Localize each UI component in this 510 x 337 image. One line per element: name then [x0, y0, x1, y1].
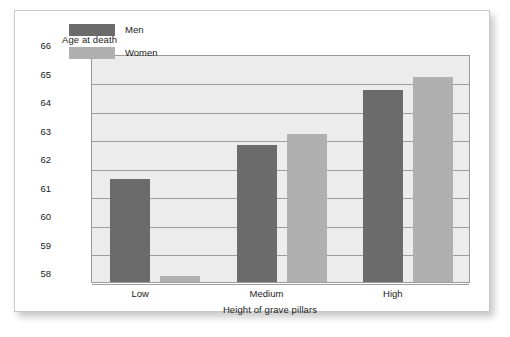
bar-low-men — [110, 179, 150, 282]
x-tick-label-medium: Medium — [250, 288, 284, 299]
bar-high-men — [363, 90, 403, 282]
legend-label-women: Women — [125, 46, 158, 59]
gridline — [92, 284, 469, 285]
bar-medium-women — [287, 134, 327, 282]
x-tick-label-low: Low — [131, 288, 148, 299]
y-tick-label: 61 — [21, 182, 51, 193]
y-tick-label: 63 — [21, 125, 51, 136]
bar-high-women — [413, 77, 453, 282]
chart-page: Age at death MenWomen 666564636261605958… — [0, 0, 510, 337]
plot-inner — [92, 56, 469, 282]
plot-area — [91, 55, 470, 283]
legend-swatch-women — [69, 47, 115, 59]
y-tick-label: 66 — [21, 40, 51, 51]
y-tick-label: 64 — [21, 97, 51, 108]
y-tick-label: 62 — [21, 154, 51, 165]
bar-low-women — [160, 276, 200, 282]
bar-medium-men — [237, 145, 277, 282]
x-tick-label-high: High — [383, 288, 403, 299]
legend-swatch-men — [69, 24, 115, 36]
legend-label-men: Men — [125, 23, 143, 36]
x-axis-title: Height of grave pillars — [15, 304, 510, 315]
y-tick-label: 65 — [21, 68, 51, 79]
y-tick-label: 58 — [21, 268, 51, 279]
y-tick-label: 60 — [21, 211, 51, 222]
figure-card: Age at death MenWomen 666564636261605958… — [14, 10, 490, 312]
y-tick-label: 59 — [21, 239, 51, 250]
